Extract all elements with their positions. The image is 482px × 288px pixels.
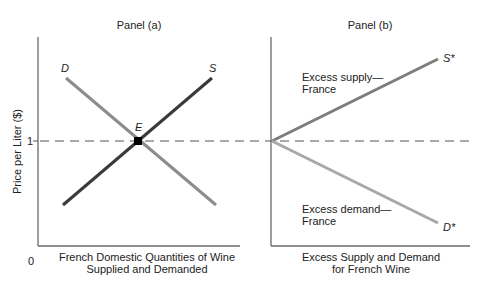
equilibrium-point-e	[134, 137, 142, 145]
equilibrium-label-e: E	[135, 121, 142, 134]
diagram-canvas	[0, 0, 482, 288]
origin-label: 0	[28, 255, 34, 268]
excess-demand-label-d-star: D*	[443, 221, 455, 234]
y-axis-label: Price per Liter ($)	[11, 109, 23, 194]
excess-supply-label-s-star: S*	[443, 52, 455, 65]
panel-b-x-label-line2: for French Wine	[332, 263, 410, 276]
supply-label-s: S	[209, 62, 216, 75]
excess-supply-annotation-line2: France	[302, 83, 336, 96]
panel-b-title: Panel (b)	[348, 19, 393, 32]
panel-a-title: Panel (a)	[117, 19, 162, 32]
excess-demand-annotation-line2: France	[302, 215, 336, 228]
y-tick-label-1: 1	[27, 135, 33, 148]
demand-label-d: D	[61, 62, 69, 75]
panel-a-x-label-line2: Supplied and Demanded	[86, 263, 207, 276]
